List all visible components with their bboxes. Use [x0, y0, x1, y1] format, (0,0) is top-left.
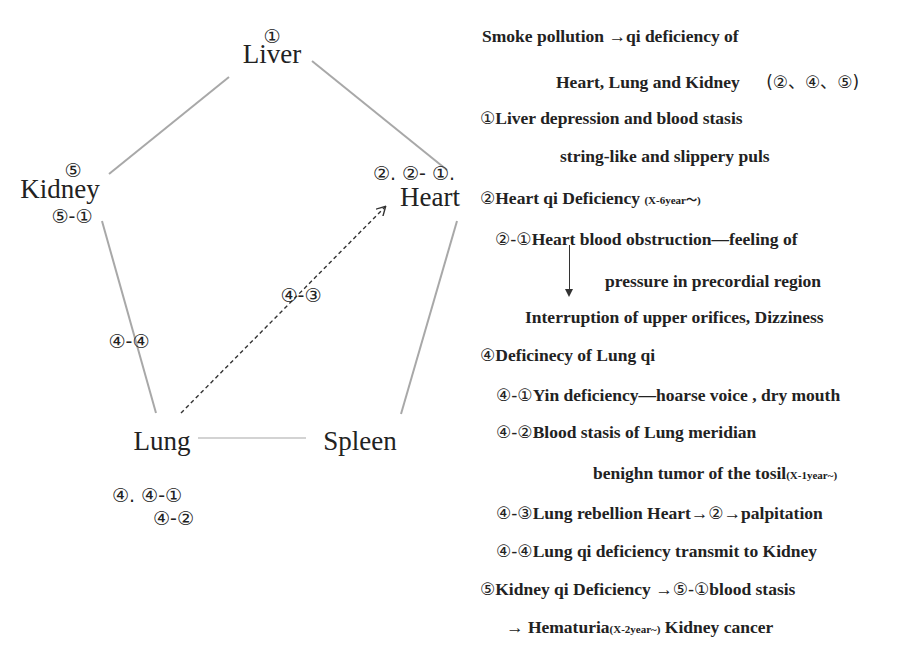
- lung-badge-line2: ④-②: [153, 507, 194, 529]
- note-text: Smoke pollution →qi deficiency of: [482, 26, 739, 46]
- note-line-14: ④-④Lung qi deficiency transmit to Kidney: [496, 541, 817, 562]
- lung-label: Lung: [134, 426, 191, 456]
- note-line-7: pressure in precordial region: [605, 271, 821, 292]
- note-text: string-like and slippery puls: [560, 146, 770, 166]
- note-line-1: Smoke pollution →qi deficiency of: [482, 26, 739, 47]
- note-line-8: Interruption of upper orifices, Dizzines…: [525, 307, 824, 328]
- note-line-13: ④-③Lung rebellion Heart→②→palpitation: [496, 503, 823, 524]
- note-text: Heart blood obstruction—feeling of: [532, 229, 798, 249]
- note-text: Kidney cancer: [660, 617, 773, 637]
- note-line-12: benighn tumor of the tosil(X-1year~): [593, 463, 837, 484]
- circled-number: ④: [480, 345, 495, 365]
- year-note: (X-1year~): [786, 469, 837, 481]
- note-line-2: Heart, Lung and Kidney (②、④、⑤): [556, 68, 859, 93]
- note-text: pressure in precordial region: [605, 271, 821, 291]
- note-text: Heart qi Deficiency: [495, 188, 640, 208]
- note-line-6: ②-①Heart blood obstruction—feeling of: [495, 229, 798, 250]
- note-line-3: ①Liver depression and blood stasis: [480, 108, 743, 129]
- heart-badge: ②. ②- ①.: [373, 162, 455, 184]
- note-text: Interruption of upper orifices, Dizzines…: [525, 307, 824, 327]
- note-text: →palpitation: [724, 503, 823, 523]
- note-text: Liver depression and blood stasis: [495, 108, 742, 128]
- note-text: Yin deficiency—hoarse voice , dry mouth: [533, 385, 841, 405]
- circled-number: ②: [480, 188, 495, 208]
- note-line-11: ④-②Blood stasis of Lung meridian: [496, 422, 756, 443]
- circled-number: ②-①: [495, 229, 532, 249]
- note-line-4: string-like and slippery puls: [560, 146, 770, 167]
- note-line-10: ④-①Yin deficiency—hoarse voice , dry mou…: [496, 385, 840, 406]
- spleen-label: Spleen: [323, 426, 397, 456]
- down-arrow-icon: [569, 245, 570, 295]
- note-text: Lung qi deficiency transmit to Kidney: [533, 541, 817, 561]
- kidney-label: Kidney: [20, 174, 100, 204]
- note-text: benighn tumor of the tosil: [593, 463, 786, 483]
- edge-label-lung-kidney: ④-④: [109, 330, 150, 352]
- edge-liver-heart: [312, 61, 447, 170]
- liver-label: Liver: [243, 39, 301, 69]
- note-line-16: → Hematuria(X-2year~) Kidney cancer: [506, 617, 773, 638]
- note-line-9: ④Deficinecy of Lung qi: [480, 345, 655, 366]
- edge-kidney-lung: [102, 221, 156, 413]
- circled-number: ④-③: [496, 503, 533, 523]
- circled-number: ④-②: [496, 422, 533, 442]
- circled-number: ④-①: [496, 385, 533, 405]
- edge-liver-kidney: [109, 77, 229, 174]
- note-text: → Hematuria: [506, 617, 610, 637]
- circled-number: ⑤: [480, 579, 495, 599]
- note-text: blood stasis: [709, 579, 795, 599]
- circled-number: ①: [480, 108, 495, 128]
- year-note: (X-6year～): [644, 194, 700, 206]
- kidney-badge-bottom: ⑤-①: [52, 205, 93, 227]
- year-note: (X-2year~): [610, 623, 661, 635]
- circled-number: ④-④: [496, 541, 533, 561]
- note-text: Lung rebellion Heart→: [533, 503, 709, 523]
- note-text: Blood stasis of Lung meridian: [533, 422, 757, 442]
- lung-badge-line1: ④. ④-①: [112, 484, 182, 506]
- circled-number: ⑤-①: [673, 579, 710, 599]
- note-line-15: ⑤Kidney qi Deficiency →⑤-①blood stasis: [480, 579, 795, 600]
- edge-heart-spleen: [401, 221, 457, 414]
- note-line-5: ②Heart qi Deficiency (X-6year～): [480, 188, 701, 209]
- heart-label: Heart: [400, 182, 460, 212]
- note-text: Kidney qi Deficiency →: [495, 579, 672, 599]
- edge-label-lung-heart: ④-③: [281, 284, 322, 306]
- circled-number: ②: [708, 503, 723, 523]
- note-text: Deficinecy of Lung qi: [495, 345, 655, 365]
- organ-refs: (②、④、⑤): [766, 72, 859, 92]
- edge-lung-heart-dashed-arrow: [181, 207, 385, 413]
- note-text: Heart, Lung and Kidney: [556, 72, 740, 92]
